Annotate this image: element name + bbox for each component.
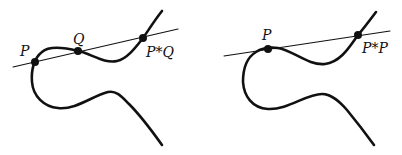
left-panel-secant: P Q P*Q (13, 11, 178, 145)
label-p-right: P (261, 27, 272, 43)
point-p-right (264, 45, 272, 53)
left-cubic-curve (32, 11, 162, 145)
point-p-star-p (354, 31, 362, 39)
elliptic-curve-figure: P Q P*Q P P*P (0, 0, 402, 155)
label-p-left: P (19, 43, 30, 59)
right-panel-tangent: P P*P (224, 12, 390, 145)
label-p-star-q: P*Q (145, 44, 174, 60)
label-q: Q (73, 31, 85, 47)
label-p-star-p: P*P (361, 40, 388, 56)
point-p-star-q (139, 34, 147, 42)
point-p-left (31, 58, 39, 66)
point-q (74, 47, 82, 55)
